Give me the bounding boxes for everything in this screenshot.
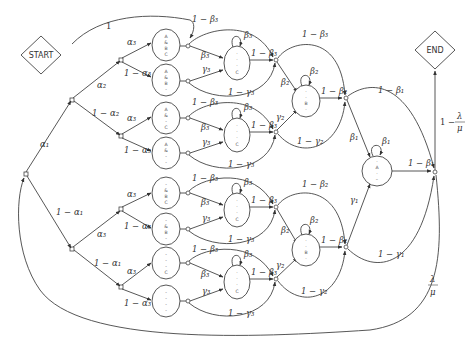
svg-text:1 − γ₃: 1 − γ₃	[228, 87, 255, 97]
svg-text:·: ·	[236, 123, 237, 128]
label-one-minus-lambda-over-mu: 1 − λ μ	[440, 111, 465, 133]
mid-group-2: β₃ γ₃ · · · C β₃ 1 − β₃ 1 − β₃ 1 − γ₃	[180, 97, 278, 169]
label-alpha1: α₁	[40, 139, 49, 149]
svg-text:γ₁: γ₁	[350, 195, 359, 205]
svg-text:·: ·	[305, 244, 306, 249]
start-label: START	[29, 51, 54, 60]
label-one-minus-alpha2-top: 1 − α₂	[92, 108, 120, 118]
leaf-state-6: - & B -	[152, 213, 180, 245]
leaf-edges: α₃ 1 − α₃ α₃ 1 − α₃ α₃ 1 − α₃ α₃ 1 − α₃	[122, 37, 152, 308]
mid-group-4: β₃ γ₃ · · · C β₃ 1 − β₃ 1 − β₃ 1 − γ₃	[180, 244, 278, 318]
leaf-state-1: A & B C	[152, 29, 180, 61]
svg-text:B: B	[164, 81, 167, 86]
svg-text:·: ·	[236, 270, 237, 275]
svg-text:β₃: β₃	[243, 177, 253, 187]
svg-text:μ: μ	[430, 287, 436, 297]
edge-one-minus-alpha2-top	[74, 101, 120, 135]
svg-text:1 − β₃: 1 − β₃	[251, 195, 278, 205]
svg-text:α₃: α₃	[127, 113, 137, 123]
svg-text:&: &	[164, 113, 168, 118]
svg-text:·: ·	[305, 238, 306, 243]
svg-text:·: ·	[236, 276, 237, 281]
label-one-minus-alpha1: 1 − α₁	[56, 207, 83, 217]
svg-text:1 − β₃: 1 − β₃	[251, 48, 278, 58]
mid-groups: β₃ γ₃ · · · C β₃ 1 − β₃ 1 − β₃ 1 − γ₃ β₃…	[180, 14, 278, 318]
svg-text:γ₃: γ₃	[202, 213, 211, 223]
label-alpha3-mid: α₃	[97, 229, 107, 239]
svg-text:1 − β₃: 1 − β₃	[192, 244, 219, 254]
junction-l3-3	[119, 207, 123, 211]
svg-text:1 − β₃: 1 − β₃	[192, 14, 219, 24]
svg-text:1 − γ₂: 1 − γ₂	[301, 286, 328, 296]
upper-state-bottom: β₂ γ₂ · · B · β₂ 1 − β₂ 1 − β₂ 1 − γ₂	[276, 179, 348, 297]
label-lambda-over-mu: λ μ	[428, 274, 438, 297]
svg-text:·: ·	[305, 95, 306, 100]
svg-text:B: B	[304, 101, 307, 106]
label-alpha2-top: α₂	[97, 80, 107, 90]
svg-text:B: B	[304, 250, 307, 255]
svg-text:&: &	[164, 148, 168, 153]
end-label: END	[426, 46, 443, 55]
svg-text:C: C	[235, 70, 238, 75]
edge-alpha1	[26, 101, 71, 172]
svg-text:β₃: β₃	[200, 50, 210, 60]
svg-text:1 − β₃: 1 − β₃	[302, 29, 329, 39]
svg-text:1 − γ₂: 1 − γ₂	[297, 136, 324, 146]
svg-text:β₂: β₂	[280, 225, 290, 235]
svg-text:1 − α₃: 1 − α₃	[124, 145, 152, 155]
svg-text:1 − β₃: 1 − β₃	[192, 97, 219, 107]
svg-text:·: ·	[305, 89, 306, 94]
svg-text:β₃: β₃	[200, 122, 210, 132]
svg-text:β₁: β₁	[349, 132, 358, 142]
svg-text:1 − γ₃: 1 − γ₃	[228, 308, 255, 318]
start-terminal: START	[21, 36, 61, 74]
svg-text:·: ·	[305, 107, 306, 112]
svg-text:γ₃: γ₃	[202, 286, 211, 296]
svg-text:C: C	[235, 142, 238, 147]
svg-text:β₂: β₂	[280, 77, 290, 87]
svg-text:C: C	[164, 200, 167, 205]
svg-text:1 − γ₃: 1 − γ₃	[228, 159, 255, 169]
svg-text:·: ·	[236, 51, 237, 56]
leaf-state-8: - - - -	[152, 285, 180, 317]
svg-text:·: ·	[376, 171, 377, 176]
svg-text:&: &	[164, 40, 168, 45]
svg-text:1 − β₂: 1 − β₂	[302, 179, 329, 189]
svg-text:1 − β₃: 1 − β₃	[251, 120, 278, 130]
svg-text:β₃: β₃	[200, 197, 210, 207]
svg-text:β₂: β₂	[309, 215, 319, 225]
edge-label-1: 1	[106, 21, 111, 31]
svg-text:·: ·	[236, 57, 237, 62]
svg-text:1 − γ₃: 1 − γ₃	[228, 234, 255, 244]
svg-text:1 − α₃: 1 − α₃	[124, 298, 152, 308]
svg-text:C: C	[235, 217, 238, 222]
svg-text:1 − γ₁: 1 − γ₁	[378, 249, 404, 259]
svg-text:λ: λ	[429, 274, 435, 284]
svg-text:·: ·	[236, 198, 237, 203]
svg-text:·: ·	[376, 159, 377, 164]
leaf-state-3: A & - C	[152, 102, 180, 134]
svg-text:C: C	[164, 125, 167, 130]
svg-text:α₃: α₃	[127, 37, 137, 47]
svg-text:γ₂: γ₂	[276, 260, 285, 270]
leaf-states: A & B C A & B - A & - C A & - - - & B C …	[152, 29, 180, 317]
svg-text:1 − β₃: 1 − β₃	[251, 267, 278, 277]
svg-text:C: C	[235, 289, 238, 294]
svg-text:α₃: α₃	[127, 266, 137, 276]
svg-text:1 − β₁: 1 − β₁	[408, 158, 434, 168]
svg-text:B: B	[164, 230, 167, 235]
svg-text:γ₂: γ₂	[276, 112, 285, 122]
junction-l1	[24, 172, 28, 176]
svg-text:β₃: β₃	[200, 269, 210, 279]
edge-one-minus-alpha2-bottom	[74, 250, 120, 286]
leaf-state-5: - & B C	[152, 177, 180, 209]
svg-text:C: C	[164, 52, 167, 57]
svg-text:·: ·	[236, 63, 237, 68]
svg-text:&: &	[164, 188, 168, 193]
label-one-minus-alpha-bottom: 1 − α₁	[94, 258, 121, 268]
upper-state-top: β₂ γ₂ · · B · β₂ 1 − β₂ 1 − β₃ 1 − γ₂	[276, 29, 348, 148]
svg-text:γ₃: γ₃	[202, 64, 211, 74]
mid-group-1: β₃ γ₃ · · · C β₃ 1 − β₃ 1 − β₃ 1 − γ₃	[180, 14, 278, 97]
svg-text:·: ·	[236, 282, 237, 287]
svg-text:1 − α₃: 1 − α₃	[124, 68, 152, 78]
